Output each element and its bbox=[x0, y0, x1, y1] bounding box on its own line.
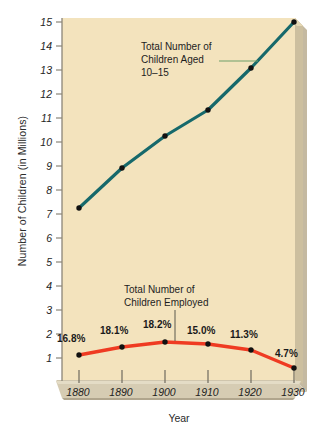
x-tick-label-1920: 1920 bbox=[227, 387, 273, 398]
y-tick-label-5: 5 bbox=[26, 257, 52, 268]
y-tick-label-12: 12 bbox=[26, 89, 52, 100]
pct-label-1890: 18.1% bbox=[100, 326, 128, 336]
panel-bevel bbox=[295, 18, 303, 384]
pct-label-1900: 18.2% bbox=[143, 320, 171, 330]
y-tick-label-7: 7 bbox=[26, 209, 52, 220]
pct-label-1930: 4.7% bbox=[275, 349, 298, 359]
y-tick-label-4: 4 bbox=[26, 281, 52, 292]
x-tick-label-1910: 1910 bbox=[184, 387, 230, 398]
y-tick-label-15: 15 bbox=[26, 17, 52, 28]
x-tick-label-1900: 1900 bbox=[141, 387, 187, 398]
annotation-children-aged: Total Number of Children Aged 10–15 bbox=[141, 40, 212, 80]
annotation-children-employed: Total Number of Children Employed bbox=[124, 283, 209, 309]
x-tick-label-1880: 1880 bbox=[55, 387, 101, 398]
y-tick-label-13: 13 bbox=[26, 65, 52, 76]
y-tick-label-8: 8 bbox=[26, 185, 52, 196]
chart-figure: 15 14 13 12 11 10 9 8 7 6 5 4 3 2 1 1880… bbox=[0, 0, 328, 441]
x-tick-label-1930: 1930 bbox=[270, 387, 316, 398]
pct-label-1910: 15.0% bbox=[187, 326, 215, 336]
y-tick-label-10: 10 bbox=[26, 137, 52, 148]
y-tick-label-11: 11 bbox=[26, 113, 52, 124]
y-tick-label-2: 2 bbox=[26, 329, 52, 340]
y-tick-label-3: 3 bbox=[26, 305, 52, 316]
y-tick-label-6: 6 bbox=[26, 233, 52, 244]
x-axis-title: Year bbox=[62, 412, 296, 424]
x-tick-label-1890: 1890 bbox=[98, 387, 144, 398]
y-tick-label-14: 14 bbox=[26, 41, 52, 52]
pct-label-1880: 16.8% bbox=[57, 334, 85, 344]
y-tick-label-9: 9 bbox=[26, 161, 52, 172]
pct-label-1920: 11.3% bbox=[230, 330, 258, 340]
y-axis-title: Number of Children (in Millions) bbox=[16, 81, 28, 301]
y-axis-ticks bbox=[56, 22, 62, 358]
y-tick-label-1: 1 bbox=[26, 353, 52, 364]
